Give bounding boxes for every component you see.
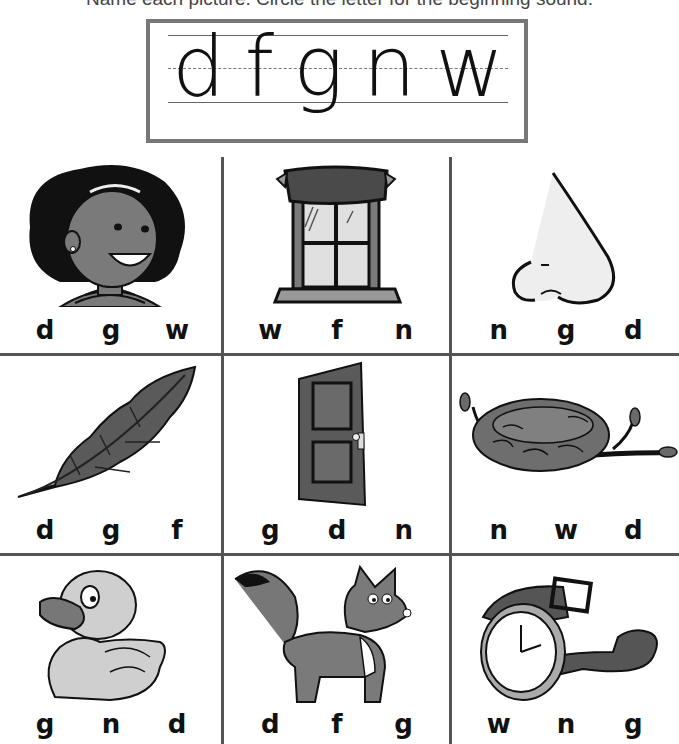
choice-letter[interactable]: f: [317, 709, 357, 739]
choice-letter[interactable]: d: [613, 315, 653, 345]
cell-girl: d g w: [0, 157, 222, 353]
choice-letter[interactable]: g: [613, 709, 653, 739]
choice-group: g n d: [0, 704, 222, 744]
choice-group: d g w: [0, 307, 222, 353]
nose-icon: [453, 157, 679, 307]
girl-icon: [0, 157, 222, 307]
choice-letter[interactable]: n: [479, 515, 519, 545]
choice-letter[interactable]: d: [317, 515, 357, 545]
choice-letter[interactable]: n: [546, 709, 586, 739]
choice-group: n w d: [453, 507, 679, 553]
choice-letter[interactable]: d: [250, 709, 290, 739]
choice-group: w f n: [225, 307, 449, 353]
choice-letter[interactable]: g: [250, 515, 290, 545]
cell-door: g d n: [225, 357, 449, 553]
instruction-text: Name each picture. Circle the letter for…: [0, 0, 679, 10]
choice-letter[interactable]: w: [250, 315, 290, 345]
choice-letter[interactable]: n: [384, 515, 424, 545]
letter-g: g: [293, 17, 343, 117]
grid-divider-vertical-2: [449, 157, 452, 744]
watch-icon: [453, 557, 679, 707]
cell-duck: g n d: [0, 557, 222, 744]
choice-letter[interactable]: n: [479, 315, 519, 345]
feather-icon: [0, 357, 222, 507]
cell-watch: w n g: [453, 557, 679, 744]
choice-letter[interactable]: d: [25, 515, 65, 545]
choice-letter[interactable]: g: [546, 315, 586, 345]
choice-group: g d n: [225, 507, 449, 553]
choice-letter[interactable]: w: [546, 515, 586, 545]
choice-letter[interactable]: d: [25, 315, 65, 345]
letter-w: w: [435, 17, 504, 117]
choice-letter[interactable]: g: [91, 515, 131, 545]
choice-letter[interactable]: f: [317, 315, 357, 345]
window-icon: [225, 157, 449, 307]
choice-letter[interactable]: d: [613, 515, 653, 545]
grid-divider-horizontal-2: [0, 553, 679, 556]
cell-fox: d f g: [225, 557, 449, 744]
choice-letter[interactable]: f: [157, 515, 197, 545]
grid-divider-horizontal-1: [0, 353, 679, 356]
duck-icon: [0, 557, 222, 707]
nest-icon: [453, 357, 679, 507]
cell-nest: n w d: [453, 357, 679, 553]
letter-list: d f g n w: [168, 17, 508, 117]
choice-group: w n g: [453, 704, 679, 744]
cell-window: w f n: [225, 157, 449, 353]
door-icon: [225, 357, 449, 507]
choice-group: d f g: [225, 704, 449, 744]
choice-letter[interactable]: n: [384, 315, 424, 345]
choice-letter[interactable]: d: [157, 709, 197, 739]
choice-letter[interactable]: w: [157, 315, 197, 345]
choice-letter[interactable]: g: [91, 315, 131, 345]
choice-group: d g f: [0, 507, 222, 553]
letter-d: d: [172, 17, 225, 117]
letter-n: n: [363, 17, 416, 117]
choice-letter[interactable]: w: [479, 709, 519, 739]
letter-f: f: [245, 17, 275, 117]
choice-group: n g d: [453, 307, 679, 353]
choice-letter[interactable]: g: [384, 709, 424, 739]
letter-box: d f g n w: [146, 19, 528, 143]
fox-icon: [225, 557, 449, 707]
choice-letter[interactable]: n: [91, 709, 131, 739]
choice-letter[interactable]: g: [25, 709, 65, 739]
cell-nose: n g d: [453, 157, 679, 353]
cell-feather: d g f: [0, 357, 222, 553]
